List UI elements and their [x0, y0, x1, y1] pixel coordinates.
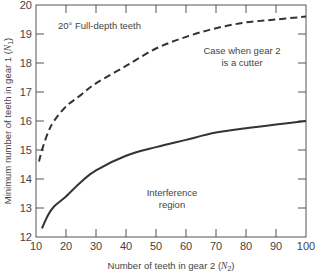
x-tick-label: 90 [270, 240, 282, 252]
y-tick-label: 20 [20, 0, 32, 11]
y-tick-label: 14 [20, 173, 32, 185]
x-tick-label: 80 [240, 240, 252, 252]
y-tick-label: 15 [20, 144, 32, 156]
x-tick-label: 70 [210, 240, 222, 252]
annotation-full-depth: 20° Full-depth teeth [58, 20, 141, 31]
annotation-cutter-line2: is a cutter [221, 57, 262, 68]
y-tick-label: 13 [20, 202, 32, 214]
y-axis-label: Minimum number of teeth in gear 1 (N1) [2, 38, 14, 205]
x-tick-label: 20 [60, 240, 72, 252]
x-tick-label: 100 [297, 240, 315, 252]
y-tick-label: 16 [20, 115, 32, 127]
y-tick-label: 18 [20, 57, 32, 69]
gear-interference-chart: 102030405060708090100121314151617181920 … [0, 0, 316, 276]
annotation-interference-line2: region [159, 199, 185, 210]
x-tick-label: 60 [180, 240, 192, 252]
cutter-dashed-curve [39, 17, 306, 162]
x-axis-label: Number of teeth in gear 2 (N2) [108, 260, 235, 272]
y-tick-label: 19 [20, 28, 32, 40]
x-tick-label: 40 [120, 240, 132, 252]
y-tick-label: 12 [20, 231, 32, 243]
x-tick-label: 50 [150, 240, 162, 252]
y-tick-label: 17 [20, 86, 32, 98]
x-tick-label: 30 [90, 240, 102, 252]
interference-solid-curve [42, 121, 306, 228]
annotation-interference-line1: Interference [147, 187, 198, 198]
annotation-cutter-line1: Case when gear 2 [203, 45, 280, 56]
